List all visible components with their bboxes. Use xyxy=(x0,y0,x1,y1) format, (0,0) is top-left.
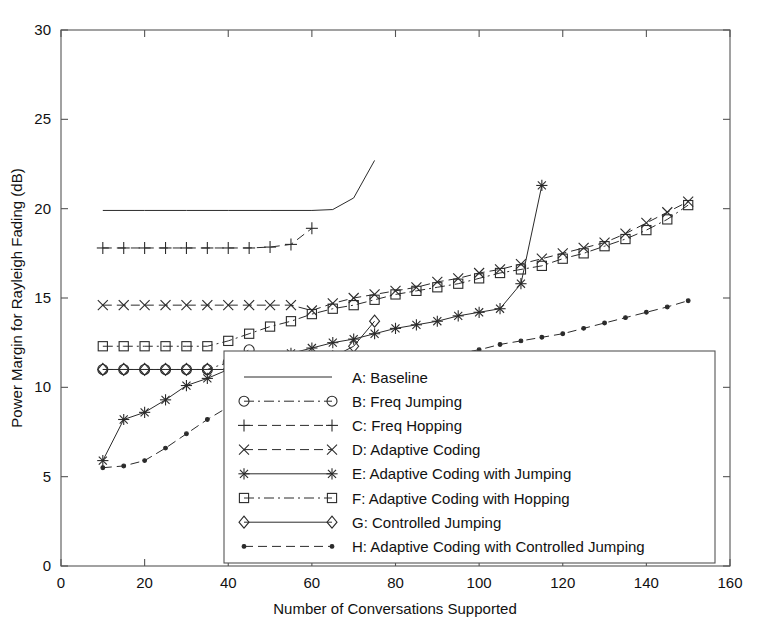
y-tick-label: 5 xyxy=(43,468,51,485)
dot-marker xyxy=(665,305,669,309)
legend-label-C: C: Freq Hopping xyxy=(352,417,462,434)
dot-marker xyxy=(603,321,607,325)
chart-legend[interactable]: A: BaselineB: Freq JumpingC: Freq Hoppin… xyxy=(224,351,715,563)
dot-marker xyxy=(686,299,690,303)
legend-label-E: E: Adaptive Coding with Jumping xyxy=(352,465,571,482)
dot-marker xyxy=(122,464,126,468)
legend-label-D: D: Adaptive Coding xyxy=(352,441,480,458)
legend-label-F: F: Adaptive Coding with Hopping xyxy=(352,490,570,507)
dot-marker xyxy=(164,446,168,450)
x-tick-label: 60 xyxy=(304,574,321,591)
x-tick-label: 40 xyxy=(220,574,237,591)
x-tick-label: 80 xyxy=(387,574,404,591)
dot-marker xyxy=(644,310,648,314)
y-tick-label: 30 xyxy=(34,21,51,38)
x-axis-title: Number of Conversations Supported xyxy=(273,600,516,617)
x-tick-label: 20 xyxy=(136,574,153,591)
legend-label-G: G: Controlled Jumping xyxy=(352,514,501,531)
y-tick-label: 10 xyxy=(34,378,51,395)
dot-marker xyxy=(143,459,147,463)
dot-marker xyxy=(185,432,189,436)
legend-label-A: A: Baseline xyxy=(352,369,428,386)
dot-marker xyxy=(205,418,209,422)
x-tick-label: 160 xyxy=(717,574,742,591)
chart-figure: 020406080100120140160051015202530 Number… xyxy=(0,0,759,628)
x-tick-label: 0 xyxy=(57,574,65,591)
y-tick-label: 25 xyxy=(34,110,51,127)
dot-marker xyxy=(519,339,523,343)
y-tick-label: 0 xyxy=(43,557,51,574)
line-chart-canvas: 020406080100120140160051015202530 Number… xyxy=(0,0,759,628)
legend-label-B: B: Freq Jumping xyxy=(352,393,462,410)
y-tick-label: 20 xyxy=(34,200,51,217)
x-tick-label: 120 xyxy=(550,574,575,591)
dot-marker xyxy=(624,316,628,320)
dot-marker xyxy=(242,545,246,549)
dot-marker xyxy=(561,332,565,336)
dot-marker xyxy=(582,326,586,330)
legend-label-H: H: Adaptive Coding with Controlled Jumpi… xyxy=(352,538,645,555)
y-axis-title: Power Margin for Rayleigh Fading (dB) xyxy=(8,168,25,427)
dot-marker xyxy=(540,335,544,339)
dot-marker xyxy=(330,545,334,549)
dot-marker xyxy=(498,343,502,347)
dot-marker xyxy=(101,466,105,470)
y-tick-label: 15 xyxy=(34,289,51,306)
x-tick-label: 140 xyxy=(634,574,659,591)
x-tick-label: 100 xyxy=(467,574,492,591)
